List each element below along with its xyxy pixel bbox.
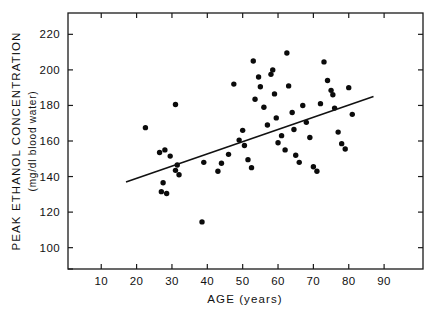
data-point bbox=[167, 153, 172, 158]
data-point bbox=[314, 169, 319, 174]
data-point bbox=[242, 143, 247, 148]
data-point bbox=[176, 172, 181, 177]
data-point bbox=[251, 58, 256, 63]
x-tick-label: 30 bbox=[165, 275, 179, 287]
data-point bbox=[252, 97, 257, 102]
data-point bbox=[219, 161, 224, 166]
y-axis-title: PEAK ETHANOL CONCENTRATION bbox=[10, 31, 22, 250]
data-point bbox=[325, 78, 330, 83]
data-point bbox=[173, 168, 178, 173]
data-point bbox=[350, 112, 355, 117]
data-point bbox=[318, 101, 323, 106]
data-point bbox=[279, 133, 284, 138]
plot-svg: 102030405060708090 100120140160180200220… bbox=[0, 0, 436, 312]
data-point bbox=[159, 189, 164, 194]
data-point bbox=[275, 140, 280, 145]
y-tick-label: 220 bbox=[40, 28, 60, 40]
data-point bbox=[249, 165, 254, 170]
y-tick-label: 180 bbox=[40, 99, 60, 111]
data-point bbox=[307, 135, 312, 140]
data-point bbox=[164, 191, 169, 196]
data-points bbox=[143, 50, 355, 224]
data-point bbox=[284, 50, 289, 55]
data-point bbox=[258, 84, 263, 89]
data-point bbox=[274, 115, 279, 120]
data-point bbox=[231, 81, 236, 86]
data-point bbox=[160, 180, 165, 185]
data-point bbox=[293, 153, 298, 158]
y-tick-label: 120 bbox=[40, 206, 60, 218]
y-axis-ticks: 100120140160180200220 bbox=[40, 28, 423, 269]
data-point bbox=[215, 169, 220, 174]
data-point bbox=[286, 83, 291, 88]
y-tick-label: 140 bbox=[40, 171, 60, 183]
scatter-plot-figure: 102030405060708090 100120140160180200220… bbox=[0, 0, 436, 312]
data-point bbox=[321, 59, 326, 64]
data-point bbox=[201, 160, 206, 165]
data-point bbox=[272, 91, 277, 96]
y-tick-label: 200 bbox=[40, 64, 60, 76]
data-point bbox=[162, 147, 167, 152]
x-tick-label: 10 bbox=[94, 275, 108, 287]
x-tick-label: 80 bbox=[342, 275, 356, 287]
data-point bbox=[245, 157, 250, 162]
x-tick-label: 20 bbox=[130, 275, 144, 287]
y-tick-label: 160 bbox=[40, 135, 60, 147]
data-point bbox=[291, 127, 296, 132]
data-point bbox=[265, 122, 270, 127]
x-tick-label: 50 bbox=[236, 275, 250, 287]
data-point bbox=[256, 74, 261, 79]
data-point bbox=[282, 147, 287, 152]
data-point bbox=[226, 152, 231, 157]
data-point bbox=[157, 150, 162, 155]
x-tick-label: 40 bbox=[201, 275, 215, 287]
x-axis-title: AGE (years) bbox=[207, 293, 282, 305]
data-point bbox=[240, 128, 245, 133]
data-point bbox=[335, 129, 340, 134]
data-point bbox=[343, 146, 348, 151]
data-point bbox=[289, 110, 294, 115]
data-point bbox=[300, 103, 305, 108]
y-axis-units: (mg/dl blood water) bbox=[27, 91, 38, 192]
data-point bbox=[311, 164, 316, 169]
data-point bbox=[270, 67, 275, 72]
y-tick-label: 100 bbox=[40, 242, 60, 254]
data-point bbox=[339, 141, 344, 146]
data-point bbox=[297, 160, 302, 165]
data-point bbox=[346, 85, 351, 90]
x-tick-label: 70 bbox=[307, 275, 321, 287]
data-point bbox=[330, 92, 335, 97]
x-tick-label: 60 bbox=[271, 275, 285, 287]
data-point bbox=[143, 125, 148, 130]
data-point bbox=[261, 105, 266, 110]
data-point bbox=[199, 219, 204, 224]
x-tick-label: 90 bbox=[377, 275, 391, 287]
data-point bbox=[173, 102, 178, 107]
